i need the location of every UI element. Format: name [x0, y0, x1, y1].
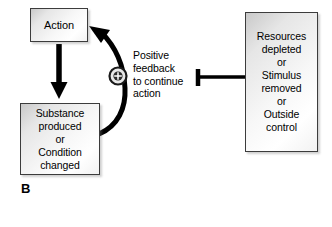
- box-substance: Substance produced or Condition changed: [20, 103, 100, 175]
- box-action-label: Action: [44, 19, 74, 32]
- connector-inhibition-tbar: [198, 69, 245, 86]
- box-resources: Resources depleted or Stimulus removed o…: [245, 12, 318, 152]
- panel-letter-label: B: [21, 181, 30, 196]
- feedback-annotation-label: Positive feedback to continue action: [133, 49, 205, 100]
- box-action: Action: [30, 8, 88, 42]
- positive-feedback-node: [110, 68, 127, 85]
- feedback-loop-diagram: Action Substance produced or Condition c…: [0, 0, 332, 227]
- box-substance-label: Substance produced or Condition changed: [36, 107, 85, 172]
- box-resources-label: Resources depleted or Stimulus removed o…: [257, 30, 306, 134]
- arrow-action-to-substance: [51, 44, 68, 99]
